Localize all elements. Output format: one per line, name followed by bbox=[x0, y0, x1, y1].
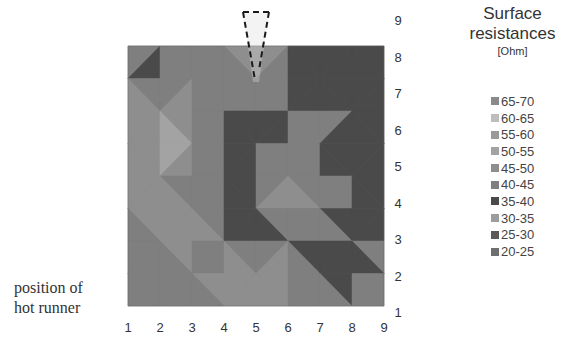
legend-swatch bbox=[491, 181, 499, 189]
x-tick-label: 4 bbox=[220, 320, 227, 335]
legend-label: 30-35 bbox=[501, 211, 534, 226]
y-tick-label: 1 bbox=[394, 305, 401, 320]
legend-item: 20-25 bbox=[491, 243, 534, 260]
y-tick-label: 6 bbox=[394, 123, 401, 138]
x-tick-label: 3 bbox=[188, 320, 195, 335]
legend-swatch bbox=[491, 197, 499, 205]
legend-label: 60-65 bbox=[501, 111, 534, 126]
x-tick-label: 6 bbox=[284, 320, 291, 335]
y-tick-label: 7 bbox=[394, 86, 401, 101]
legend-item: 30-35 bbox=[491, 210, 534, 227]
x-tick-label: 7 bbox=[316, 320, 323, 335]
legend-item: 45-50 bbox=[491, 160, 534, 177]
hot-runner-annotation-line2: hot runner bbox=[14, 298, 83, 318]
legend-swatch bbox=[491, 97, 499, 105]
y-tick-label: 3 bbox=[394, 232, 401, 247]
y-tick-label: 2 bbox=[394, 269, 401, 284]
legend-label: 55-60 bbox=[501, 127, 534, 142]
legend-label: 50-55 bbox=[501, 144, 534, 159]
legend-label: 25-30 bbox=[501, 227, 534, 242]
legend-label: 35-40 bbox=[501, 194, 534, 209]
legend-item: 50-55 bbox=[491, 143, 534, 160]
legend-item: 55-60 bbox=[491, 126, 534, 143]
x-tick-label: 9 bbox=[380, 320, 387, 335]
hot-runner-annotation: position of hot runner bbox=[14, 278, 83, 318]
legend-item: 60-65 bbox=[491, 110, 534, 127]
y-tick-label: 4 bbox=[394, 196, 401, 211]
legend-label: 40-45 bbox=[501, 177, 534, 192]
legend-item: 25-30 bbox=[491, 227, 534, 244]
contour-cells bbox=[128, 46, 384, 306]
legend-label: 20-25 bbox=[501, 244, 534, 259]
legend-label: 45-50 bbox=[501, 161, 534, 176]
y-tick-label: 9 bbox=[394, 13, 401, 28]
legend-swatch bbox=[491, 114, 499, 122]
hot-runner-annotation-line1: position of bbox=[14, 278, 83, 298]
x-axis-ticks: 123456789 bbox=[124, 320, 387, 335]
y-tick-label: 8 bbox=[394, 50, 401, 65]
legend: 65-7060-6555-6050-5545-5040-4535-4030-35… bbox=[491, 93, 534, 260]
legend-swatch bbox=[491, 214, 499, 222]
legend-title-line1: Surface bbox=[440, 4, 585, 24]
legend-swatch bbox=[491, 248, 499, 256]
legend-swatch bbox=[491, 231, 499, 239]
legend-item: 65-70 bbox=[491, 93, 534, 110]
legend-swatch bbox=[491, 131, 499, 139]
legend-item: 35-40 bbox=[491, 193, 534, 210]
legend-title-line2: resistances bbox=[440, 24, 585, 44]
y-tick-label: 5 bbox=[394, 159, 401, 174]
x-tick-label: 5 bbox=[252, 320, 259, 335]
legend-unit: [Ohm] bbox=[440, 44, 585, 58]
x-tick-label: 2 bbox=[156, 320, 163, 335]
x-tick-label: 1 bbox=[124, 320, 131, 335]
legend-swatch bbox=[491, 147, 499, 155]
y-axis-ticks: 987654321 bbox=[394, 13, 401, 320]
legend-label: 65-70 bbox=[501, 94, 534, 109]
x-tick-label: 8 bbox=[348, 320, 355, 335]
legend-swatch bbox=[491, 164, 499, 172]
legend-item: 40-45 bbox=[491, 176, 534, 193]
